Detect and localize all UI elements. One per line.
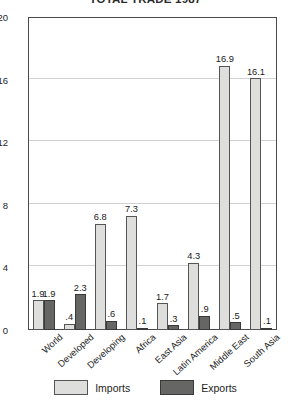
bar-imports xyxy=(95,224,106,330)
bar-value-label: 16.1 xyxy=(247,67,265,77)
bars-layer: 1.91.9.42.36.8.67.3.11.7.34.3.916.9.516.… xyxy=(28,17,277,330)
bar-chart: TOTAL TRADE 1987 048121620 1.91.9.42.36.… xyxy=(0,0,291,403)
bar-value-label: 7.3 xyxy=(125,204,138,214)
bar-value-label: 16.9 xyxy=(216,54,234,64)
bar-value-label: .5 xyxy=(232,311,240,321)
legend-item-imports[interactable]: Imports xyxy=(54,380,130,395)
bar-group: .42.3 xyxy=(59,17,90,330)
bar-imports xyxy=(64,324,75,330)
y-tick-label: 16 xyxy=(0,74,8,85)
bar-exports xyxy=(106,321,117,330)
bar-exports xyxy=(44,300,55,330)
bar-value-label: .9 xyxy=(201,304,209,314)
chart-title: TOTAL TRADE 1987 xyxy=(0,0,291,5)
bar-group: 1.7.3 xyxy=(153,17,184,330)
bar-imports xyxy=(219,66,230,330)
y-tick-label: 4 xyxy=(0,262,8,273)
bar-exports xyxy=(168,325,179,330)
bar-imports xyxy=(157,303,168,330)
bar-value-label: .4 xyxy=(65,312,73,322)
legend-item-exports[interactable]: Exports xyxy=(160,380,237,395)
x-tick-label: Africa xyxy=(133,332,157,355)
bar-imports xyxy=(126,216,137,330)
bar-value-label: 1.7 xyxy=(156,292,169,302)
bar-value-label: 2.3 xyxy=(74,283,87,293)
bar-value-label: 1.9 xyxy=(43,289,56,299)
bar-exports xyxy=(75,294,86,330)
bar-exports xyxy=(230,322,241,330)
bar-imports xyxy=(188,263,199,330)
bar-group: 4.3.9 xyxy=(184,17,215,330)
bar-group: 7.3.1 xyxy=(121,17,152,330)
bar-group: 6.8.6 xyxy=(90,17,121,330)
y-tick-label: 20 xyxy=(0,12,8,23)
bar-value-label: .1 xyxy=(139,316,147,326)
legend-label: Exports xyxy=(201,382,237,394)
bar-group: 1.91.9 xyxy=(28,17,59,330)
legend-swatch-imports xyxy=(54,380,88,395)
bar-exports xyxy=(137,328,148,330)
y-tick-label: 8 xyxy=(0,199,8,210)
chart-legend: ImportsExports xyxy=(0,380,291,395)
legend-swatch-exports xyxy=(160,380,194,395)
bar-value-label: 4.3 xyxy=(187,251,200,261)
x-tick-label: World xyxy=(40,332,65,356)
bar-imports xyxy=(33,300,44,330)
bar-value-label: .6 xyxy=(107,309,115,319)
legend-label: Imports xyxy=(95,382,130,394)
bar-exports xyxy=(261,328,272,330)
y-tick-label: 12 xyxy=(0,137,8,148)
bar-value-label: .1 xyxy=(263,316,271,326)
bar-imports xyxy=(250,78,261,330)
x-axis-labels: WorldDevelopedDevelopingAfricaEast AsiaL… xyxy=(28,332,277,384)
y-tick-label: 0 xyxy=(0,325,8,336)
bar-value-label: 6.8 xyxy=(94,212,107,222)
bar-exports xyxy=(199,316,210,330)
bar-group: 16.1.1 xyxy=(246,17,277,330)
bar-value-label: .3 xyxy=(170,314,178,324)
bar-group: 16.9.5 xyxy=(215,17,246,330)
